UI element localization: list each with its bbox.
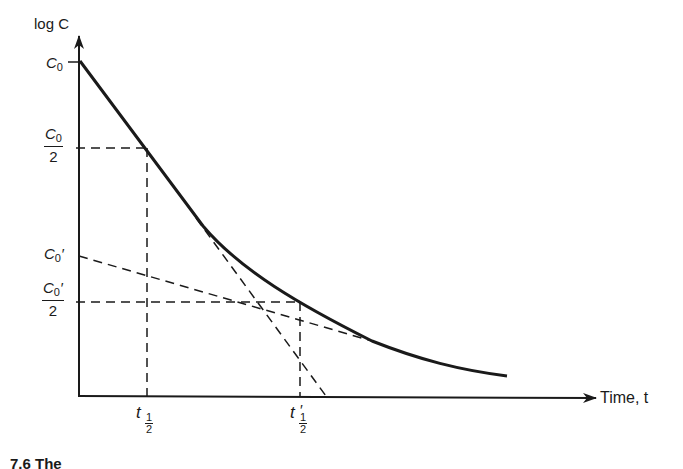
log-c-curve [80, 61, 507, 376]
diagram-canvas [0, 0, 683, 469]
x-axis-label: Time, t [600, 390, 648, 406]
c0-prime-half-label: C0′ 2 [42, 280, 64, 318]
t-prime-half-label: t′ 1 2 [290, 404, 295, 421]
c0-label: C0 [46, 55, 63, 73]
slow-phase-extrapolation [79, 256, 372, 341]
y-axis-label: log C [34, 16, 69, 31]
x-axis [78, 396, 596, 398]
c0-prime-label: C0′ [44, 246, 64, 264]
c0-half-label: C0 2 [44, 126, 63, 164]
t-half-label: t 1 2 [136, 404, 141, 421]
figure-caption: 7.6 The [10, 455, 62, 469]
